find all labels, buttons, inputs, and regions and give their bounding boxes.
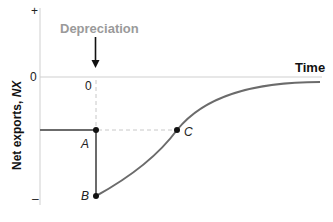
point-b-label: B (81, 190, 89, 202)
point-a (93, 127, 99, 133)
point-b (93, 193, 99, 199)
x-zero-label: 0 (85, 80, 92, 92)
point-c (174, 127, 180, 133)
y-tick-zero: 0 (30, 71, 37, 83)
point-a-label: A (81, 138, 89, 150)
x-axis-label: Time (295, 61, 325, 74)
point-c-label: C (184, 126, 193, 138)
y-axis-label: Net exports, NX (11, 81, 23, 170)
y-tick-plus: + (31, 5, 38, 17)
j-curve-diagram (0, 0, 333, 222)
depreciation-annotation: Depreciation (60, 22, 139, 35)
y-tick-minus: – (32, 193, 39, 205)
depreciation-arrow-head (92, 60, 100, 68)
